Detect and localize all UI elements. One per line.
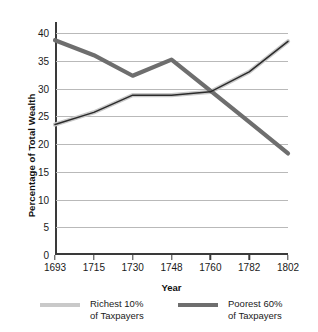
legend: Richest 10% of Taxpayers Poorest 60% of …	[0, 298, 318, 332]
y-axis-tick-label: 15	[38, 166, 49, 177]
x-axis-tick-label: 1802	[277, 262, 299, 273]
x-axis-tick-label: 1760	[199, 262, 221, 273]
x-axis-title: Year	[55, 282, 288, 293]
legend-label-poorest: Poorest 60% of Taxpayers	[228, 298, 282, 322]
legend-label-richest-line2: of Taxpayers	[90, 310, 144, 321]
y-axis-tick-label: 30	[38, 83, 49, 94]
plot-area: 0510152025303540 16931715173017481760178…	[55, 33, 288, 255]
x-axis-tick-label: 1715	[83, 262, 105, 273]
x-axis-tick-label: 1782	[238, 262, 260, 273]
x-axis-tick	[171, 255, 172, 260]
chart-figure: Percentage of Total Wealth 0510152025303…	[0, 0, 318, 332]
x-axis-tick-label: 1693	[44, 262, 66, 273]
x-axis-tick	[287, 255, 288, 260]
x-axis-tick	[248, 255, 249, 260]
legend-item-richest: Richest 10% of Taxpayers	[40, 298, 144, 322]
legend-label-richest: Richest 10% of Taxpayers	[90, 298, 144, 322]
legend-swatch-richest	[40, 303, 80, 307]
legend-item-poorest: Poorest 60% of Taxpayers	[178, 298, 282, 322]
series-lines	[55, 33, 288, 255]
legend-label-richest-line1: Richest 10%	[90, 298, 143, 309]
y-axis-tick-label: 25	[38, 111, 49, 122]
y-axis-tick-label: 20	[38, 139, 49, 150]
x-axis-tick-label: 1748	[160, 262, 182, 273]
x-axis-tick	[54, 255, 55, 260]
x-axis-tick	[132, 255, 133, 260]
x-axis-tick	[93, 255, 94, 260]
y-axis-tick-label: 40	[38, 28, 49, 39]
y-axis-tick-label: 0	[43, 250, 49, 261]
legend-label-poorest-line1: Poorest 60%	[228, 298, 282, 309]
y-axis-tick-label: 35	[38, 55, 49, 66]
x-axis-tick	[210, 255, 211, 260]
x-axis-tick-label: 1730	[122, 262, 144, 273]
legend-swatch-poorest	[178, 303, 218, 307]
y-axis-tick-label: 5	[43, 222, 49, 233]
legend-label-poorest-line2: of Taxpayers	[228, 310, 282, 321]
y-axis-title: Percentage of Total Wealth	[26, 61, 37, 251]
y-axis-tick-label: 10	[38, 194, 49, 205]
